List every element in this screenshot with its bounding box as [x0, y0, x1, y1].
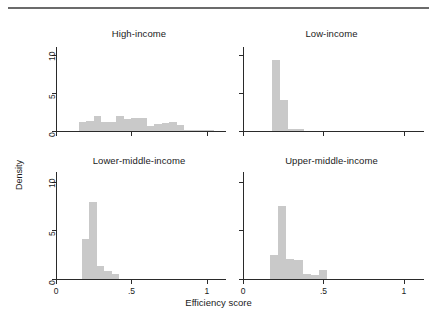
- bar-low-income-1: [280, 100, 288, 131]
- x-tick-upper-middle-income-2: [404, 280, 405, 284]
- x-tick-lower-middle-income-1: [131, 280, 132, 284]
- bar-low-income-0: [272, 60, 280, 131]
- bar-high-income-14: [184, 130, 192, 131]
- y-tick-label-lower-middle-income-5: 5: [47, 232, 57, 237]
- panel-title-low-income: Low-income: [243, 28, 420, 39]
- y-tick-low-income-0: [239, 131, 243, 132]
- bar-upper-middle-income-3: [294, 260, 302, 279]
- x-axis-line-upper-middle-income: [243, 279, 424, 280]
- x-tick-low-income-1: [323, 132, 324, 136]
- y-tick-lower-middle-income-0: [52, 279, 56, 280]
- y-tick-high-income-10: [52, 55, 56, 56]
- y-axis-label: Density: [14, 160, 24, 190]
- y-tick-high-income-5: [52, 93, 56, 94]
- y-tick-label-lower-middle-income-0: 0: [47, 280, 57, 285]
- x-tick-lower-middle-income-0: [56, 280, 57, 284]
- bar-low-income-2: [288, 129, 296, 131]
- bar-lower-middle-income-4: [112, 274, 120, 279]
- bar-high-income-2: [94, 116, 102, 131]
- bar-lower-middle-income-3: [104, 271, 112, 279]
- x-tick-upper-middle-income-1: [323, 280, 324, 284]
- panel-title-lower-middle-income: Lower-middle-income: [56, 155, 222, 166]
- bar-high-income-12: [169, 122, 177, 131]
- y-tick-label-high-income-0: 0: [47, 132, 57, 137]
- bar-high-income-11: [162, 123, 170, 131]
- bar-upper-middle-income-1: [278, 206, 286, 279]
- bar-low-income-3: [296, 129, 304, 131]
- bar-high-income-9: [147, 126, 155, 131]
- y-tick-low-income-5: [239, 93, 243, 94]
- bar-high-income-0: [79, 122, 87, 131]
- x-tick-lower-middle-income-2: [207, 280, 208, 284]
- bar-high-income-4: [109, 122, 117, 131]
- x-tick-low-income-2: [404, 132, 405, 136]
- bar-upper-middle-income-5: [311, 275, 319, 279]
- x-tick-label-upper-middle-income-1: .5: [313, 286, 333, 296]
- panel-lower-middle-income: Lower-middle-income05100.51: [0, 0, 437, 321]
- x-axis-label: Efficiency score: [0, 297, 437, 308]
- y-tick-lower-middle-income-5: [52, 230, 56, 231]
- x-tick-label-upper-middle-income-0: 0: [233, 286, 253, 296]
- bar-high-income-15: [192, 130, 200, 131]
- x-tick-low-income-0: [243, 132, 244, 136]
- x-tick-high-income-2: [207, 132, 208, 136]
- bar-high-income-8: [139, 118, 147, 131]
- bar-upper-middle-income-0: [270, 255, 278, 279]
- x-tick-label-lower-middle-income-1: .5: [121, 286, 141, 296]
- x-tick-label-lower-middle-income-0: 0: [46, 286, 66, 296]
- bar-high-income-3: [101, 122, 109, 131]
- bar-high-income-10: [154, 124, 162, 131]
- bar-high-income-5: [116, 116, 124, 131]
- bar-high-income-6: [124, 119, 132, 131]
- bar-lower-middle-income-0: [82, 239, 90, 279]
- bar-lower-middle-income-1: [89, 202, 97, 279]
- panel-upper-middle-income: Upper-middle-income0.51: [0, 0, 437, 321]
- x-tick-upper-middle-income-0: [243, 280, 244, 284]
- panel-title-high-income: High-income: [56, 28, 222, 39]
- y-tick-label-lower-middle-income-10: 10: [47, 178, 57, 187]
- y-tick-lower-middle-income-10: [52, 182, 56, 183]
- y-axis-line-upper-middle-income: [243, 172, 244, 280]
- panel-title-upper-middle-income: Upper-middle-income: [243, 155, 420, 166]
- x-tick-high-income-1: [131, 132, 132, 136]
- x-tick-label-lower-middle-income-2: 1: [197, 286, 217, 296]
- y-tick-label-high-income-10: 10: [47, 51, 57, 60]
- y-tick-low-income-10: [239, 55, 243, 56]
- bar-high-income-17: [207, 130, 215, 131]
- panel-low-income: Low-income: [0, 0, 437, 321]
- x-tick-high-income-0: [56, 132, 57, 136]
- y-axis-line-low-income: [243, 47, 244, 132]
- bar-upper-middle-income-4: [303, 274, 311, 279]
- x-tick-label-upper-middle-income-2: 1: [394, 286, 414, 296]
- bar-high-income-16: [199, 130, 207, 131]
- y-axis-line-high-income: [56, 47, 57, 132]
- y-axis-line-lower-middle-income: [56, 172, 57, 280]
- x-axis-line-low-income: [243, 131, 424, 132]
- y-tick-upper-middle-income-5: [239, 230, 243, 231]
- y-tick-label-high-income-5: 5: [47, 94, 57, 99]
- panel-high-income: High-income0510: [0, 0, 437, 321]
- y-tick-upper-middle-income-0: [239, 279, 243, 280]
- bar-high-income-1: [86, 121, 94, 131]
- bar-high-income-7: [131, 118, 139, 131]
- bar-lower-middle-income-2: [97, 266, 105, 279]
- bar-upper-middle-income-6: [319, 270, 327, 279]
- x-axis-line-lower-middle-income: [56, 279, 226, 280]
- bar-high-income-13: [177, 125, 185, 131]
- y-tick-upper-middle-income-10: [239, 182, 243, 183]
- x-axis-line-high-income: [56, 131, 226, 132]
- bar-upper-middle-income-2: [286, 259, 294, 279]
- y-tick-high-income-0: [52, 131, 56, 132]
- histogram-figure: Density Efficiency score High-income0510…: [0, 0, 437, 321]
